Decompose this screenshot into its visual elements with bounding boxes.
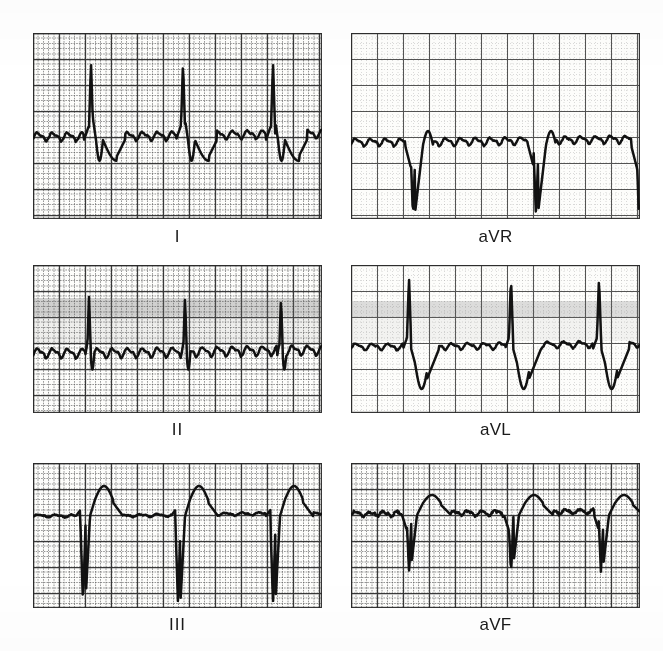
ecg-panel-iii (33, 463, 322, 608)
ecg-panel-ii (33, 265, 322, 413)
lead-label-iii: III (33, 616, 322, 633)
ecg-panel-i (33, 33, 322, 219)
lead-label-ii: II (33, 421, 322, 438)
lead-label-avf: aVF (351, 616, 640, 633)
ecg-panel-avr (351, 33, 640, 219)
lead-label-avr: aVR (351, 228, 640, 245)
lead-label-i: I (33, 228, 322, 245)
ecg-panel-avf (351, 463, 640, 608)
lead-label-avl: aVL (351, 421, 640, 438)
ecg-figure: IaVRIIaVLIIIaVF (0, 0, 663, 651)
ecg-panel-avl (351, 265, 640, 413)
